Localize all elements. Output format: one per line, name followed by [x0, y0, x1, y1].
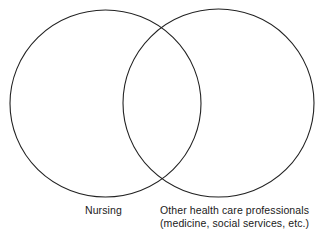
other-professionals-label: Other health care professionals (medicin… — [160, 204, 309, 229]
nursing-circle — [10, 10, 201, 197]
nursing-label-text: Nursing — [85, 204, 122, 216]
venn-diagram — [0, 0, 334, 237]
other-professionals-label-line2: (medicine, social services, etc.) — [160, 217, 309, 230]
other-professionals-circle — [123, 9, 314, 197]
other-professionals-label-line1: Other health care professionals — [160, 204, 309, 217]
nursing-label: Nursing — [85, 204, 122, 217]
